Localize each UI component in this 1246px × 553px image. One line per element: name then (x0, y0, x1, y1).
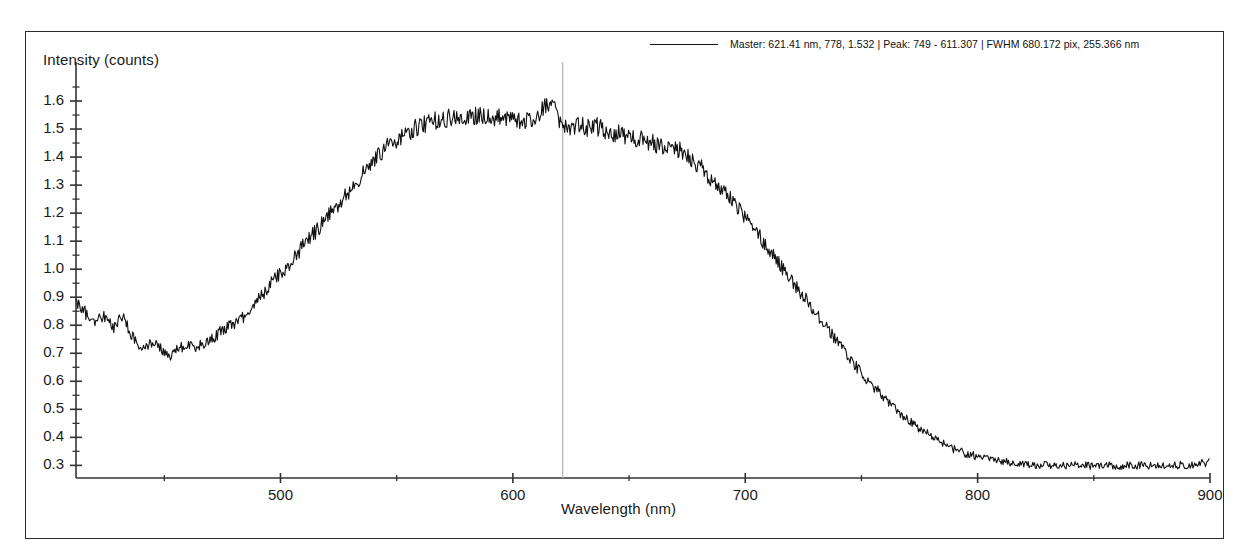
legend-line-icon (650, 44, 718, 45)
legend: Master: 621.41 nm, 778, 1.532 | Peak: 74… (650, 38, 1139, 50)
y-tick-label: 0.8 (24, 315, 64, 332)
y-tick-label: 0.9 (24, 287, 64, 304)
y-tick-label: 0.5 (24, 399, 64, 416)
x-tick-label: 900 (1180, 486, 1240, 503)
y-tick-label: 1.6 (24, 91, 64, 108)
y-tick-label: 1.4 (24, 147, 64, 164)
y-tick-label: 0.7 (24, 343, 64, 360)
y-tick-label: 0.4 (24, 427, 64, 444)
y-tick-label: 1.2 (24, 203, 64, 220)
y-tick-label: 0.3 (24, 455, 64, 472)
x-axis-title: Wavelength (nm) (561, 500, 676, 517)
y-tick-label: 1.0 (24, 259, 64, 276)
y-axis-title: Intensity (counts) (43, 51, 159, 68)
y-tick-label: 1.5 (24, 119, 64, 136)
spectrum-viewer: Intensity (counts) Wavelength (nm) Maste… (0, 0, 1246, 553)
x-tick-label: 700 (715, 486, 775, 503)
y-tick-label: 0.6 (24, 371, 64, 388)
spectrum-chart[interactable] (0, 0, 1246, 553)
x-tick-label: 600 (483, 486, 543, 503)
y-tick-label: 1.1 (24, 231, 64, 248)
x-tick-label: 800 (948, 486, 1008, 503)
legend-label: Master: 621.41 nm, 778, 1.532 | Peak: 74… (730, 38, 1139, 50)
spectrum-trace (76, 99, 1209, 470)
y-tick-label: 1.3 (24, 175, 64, 192)
x-tick-label: 500 (250, 486, 310, 503)
